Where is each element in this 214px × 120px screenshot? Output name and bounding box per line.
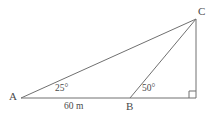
- right-angle-marker: [189, 91, 196, 98]
- angle-label-50-degrees: 50°: [142, 84, 155, 94]
- vertex-label-a: A: [9, 91, 17, 102]
- segment-BC: [130, 19, 196, 98]
- vertex-label-c: C: [198, 6, 205, 17]
- segments-group: [21, 19, 196, 98]
- right-angle-icon: [189, 91, 196, 98]
- angle-label-25-degrees: 25°: [55, 84, 68, 94]
- geometry-diagram: A B C 25° 50° 60 m: [0, 0, 214, 120]
- vertex-label-b: B: [126, 101, 133, 112]
- measurement-label-base: 60 m: [64, 102, 83, 112]
- diagram-canvas: [0, 0, 214, 120]
- segment-AC: [21, 19, 196, 98]
